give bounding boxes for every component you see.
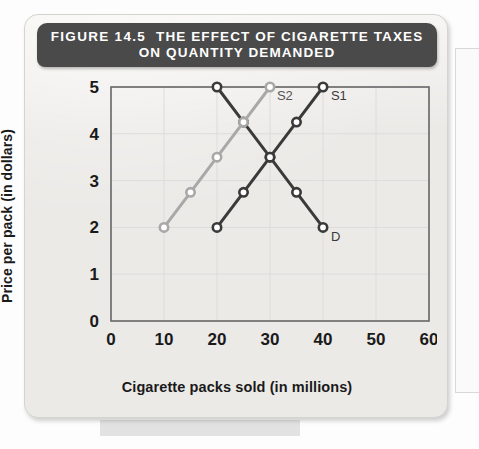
page-shadow-strip bbox=[100, 420, 300, 436]
x-tick-label: 10 bbox=[155, 330, 174, 349]
figure-card: FIGURE 14.5THE EFFECT OF CIGARETTE TAXES… bbox=[24, 14, 448, 418]
data-point-marker bbox=[213, 153, 221, 161]
figure-header-banner: FIGURE 14.5THE EFFECT OF CIGARETTE TAXES… bbox=[37, 23, 437, 67]
data-point-marker bbox=[213, 83, 221, 91]
series-label-s2: S2 bbox=[277, 88, 293, 103]
x-tick-label: 0 bbox=[106, 330, 115, 349]
data-point-marker bbox=[266, 83, 274, 91]
data-point-marker bbox=[186, 188, 194, 196]
data-point-marker bbox=[213, 223, 221, 231]
series-label-d: D bbox=[331, 229, 340, 244]
figure-page: FIGURE 14.5THE EFFECT OF CIGARETTE TAXES… bbox=[0, 0, 479, 449]
x-tick-label: 40 bbox=[314, 330, 333, 349]
x-axis-title: Cigarette packs sold (in millions) bbox=[37, 379, 437, 395]
figure-number: FIGURE 14.5 bbox=[51, 29, 146, 44]
y-tick-label: 1 bbox=[90, 265, 99, 284]
data-point-marker bbox=[239, 118, 247, 126]
series-label-s1: S1 bbox=[331, 88, 347, 103]
chart-svg: DS1S20102030405060012345 bbox=[37, 73, 437, 373]
x-tick-label: 50 bbox=[367, 330, 386, 349]
y-tick-label: 0 bbox=[90, 312, 99, 331]
plot-area: Price per pack (in dollars) Cigarette pa… bbox=[37, 73, 437, 409]
x-tick-label: 30 bbox=[261, 330, 280, 349]
adjacent-page-panel bbox=[455, 48, 479, 393]
data-point-marker bbox=[319, 223, 327, 231]
x-tick-label: 60 bbox=[420, 330, 437, 349]
figure-title-line2: ON QUANTITY DEMANDED bbox=[139, 45, 336, 60]
y-tick-label: 3 bbox=[90, 172, 99, 191]
y-axis-title: Price per pack (in dollars) bbox=[0, 101, 15, 331]
x-tick-label: 20 bbox=[208, 330, 227, 349]
data-point-marker bbox=[292, 118, 300, 126]
figure-title-line1: THE EFFECT OF CIGARETTE TAXES bbox=[156, 29, 423, 44]
figure-header-text: FIGURE 14.5THE EFFECT OF CIGARETTE TAXES… bbox=[51, 29, 423, 60]
y-tick-label: 2 bbox=[90, 218, 99, 237]
data-point-marker bbox=[239, 188, 247, 196]
data-point-marker bbox=[160, 223, 168, 231]
y-tick-label: 5 bbox=[90, 78, 99, 97]
y-tick-label: 4 bbox=[90, 125, 100, 144]
data-point-marker bbox=[266, 153, 274, 161]
data-point-marker bbox=[319, 83, 327, 91]
data-point-marker bbox=[292, 188, 300, 196]
